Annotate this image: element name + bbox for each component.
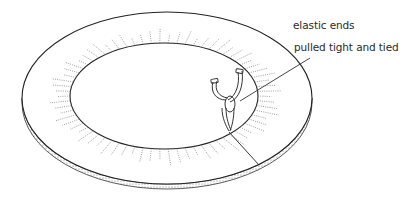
callout-label-line1: elastic ends	[293, 18, 354, 32]
diagram-canvas: elastic ends pulled tight and tied	[0, 0, 412, 207]
callout-label-line2: pulled tight and tied	[294, 40, 399, 54]
